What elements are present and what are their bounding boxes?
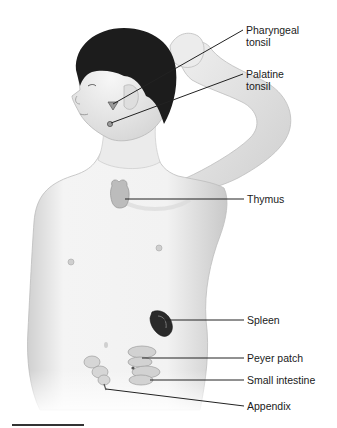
label-text: Palatine <box>246 68 284 80</box>
label-text: tonsil <box>246 36 299 48</box>
label-text: Pharyngeal <box>246 24 299 36</box>
label-small-intestine: Small intestine <box>247 374 315 386</box>
right-nipple <box>156 245 162 251</box>
label-thymus: Thymus <box>247 193 284 205</box>
label-pharyngeal-tonsil: Pharyngeal tonsil <box>246 24 299 48</box>
label-peyer-patch: Peyer patch <box>247 352 303 364</box>
raised-arm <box>170 33 291 192</box>
torso <box>0 120 337 415</box>
label-appendix: Appendix <box>247 400 291 412</box>
label-text: tonsil <box>246 80 284 92</box>
left-nipple <box>68 259 74 265</box>
scale-bar <box>12 424 84 426</box>
thymus-organ <box>111 180 130 208</box>
head <box>72 28 176 141</box>
lymphatic-organs-diagram: Pharyngeal tonsil Palatine tonsil Thymus… <box>0 0 337 428</box>
label-spleen: Spleen <box>247 314 280 326</box>
label-palatine-tonsil: Palatine tonsil <box>246 68 284 92</box>
